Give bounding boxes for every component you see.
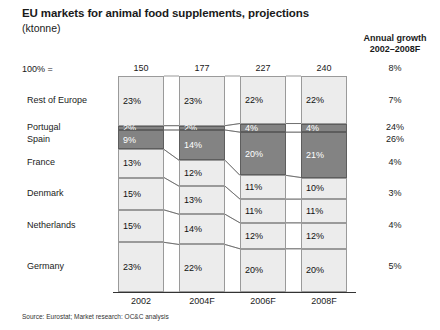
category-label: Denmark [27, 188, 64, 198]
growth-value: 4% [352, 220, 438, 230]
bar-segment: 12% [240, 223, 286, 249]
stacked-bar: 23%2%9%13%15%15%23% [118, 76, 164, 292]
x-axis-tick-label: 2006F [240, 296, 286, 306]
bar-segment: 22% [179, 244, 225, 292]
bar-segment: 13% [179, 186, 225, 214]
bar-segment: 20% [301, 249, 347, 292]
bar-segment: 4% [301, 124, 347, 133]
annual-growth-header: Annual growth 2002–2008F [352, 33, 438, 55]
stacked-bar: 22%4%21%10%11%12%20% [301, 76, 347, 292]
x-axis-line [113, 292, 356, 293]
bar-segment: 10% [301, 178, 347, 200]
bar-segment: 13% [118, 149, 164, 177]
bar-segment: 14% [179, 214, 225, 244]
category-label: France [27, 157, 55, 167]
bar-segment: 21% [301, 132, 347, 177]
bar-segment: 20% [240, 249, 286, 292]
x-axis-labels: 20022004F2006F2008F [0, 296, 440, 310]
chart-title: EU markets for animal food supplements, … [22, 7, 309, 19]
stacked-bar: 22%4%20%11%11%12%20% [240, 76, 286, 292]
x-axis-tick-label: 2004F [179, 296, 225, 306]
bar-segment: 14% [179, 130, 225, 160]
bar-segment: 9% [118, 130, 164, 149]
bar-segment: 4% [240, 124, 286, 133]
category-label: Spain [27, 134, 50, 144]
bar-segment: 23% [179, 76, 225, 126]
growth-value: 26% [352, 134, 438, 144]
bar-segment: 22% [240, 76, 286, 124]
category-label: Rest of Europe [27, 95, 87, 105]
annual-growth-header-line2: 2002–2008F [352, 44, 438, 55]
category-label: Netherlands [27, 220, 76, 230]
bar-segment: 11% [301, 199, 347, 223]
growth-value: 5% [352, 261, 438, 271]
bar-segment: 11% [240, 175, 286, 199]
bar-total: 177 [179, 63, 225, 73]
bar-segment: 11% [240, 199, 286, 223]
chart-subtitle: (ktonne) [22, 22, 61, 34]
stacked-bar: 23%2%14%12%13%14%22% [179, 76, 225, 292]
bar-segment: 23% [118, 242, 164, 292]
growth-value: 3% [352, 188, 438, 198]
plot-area: 23%2%9%13%15%15%23%23%2%14%12%13%14%22%2… [0, 76, 440, 292]
growth-value: 7% [352, 95, 438, 105]
annual-growth-header-line1: Annual growth [352, 33, 438, 44]
source-note: Source: Eurostat; Market research: OC&C … [22, 313, 169, 320]
bar-total: 240 [301, 63, 347, 73]
x-axis-tick-label: 2008F [301, 296, 347, 306]
bar-segment: 12% [301, 223, 347, 249]
bar-segment: 15% [118, 178, 164, 210]
total-growth-value: 8% [352, 63, 438, 73]
bar-segment: 22% [301, 76, 347, 124]
bar-segment: 23% [118, 76, 164, 126]
category-label: Portugal [27, 122, 61, 132]
bar-segment: 12% [179, 160, 225, 186]
x-axis-tick-label: 2002 [118, 296, 164, 306]
bar-segment: 20% [240, 132, 286, 175]
bar-total: 150 [118, 63, 164, 73]
category-label: Germany [27, 261, 64, 271]
growth-value: 4% [352, 157, 438, 167]
bar-segment: 15% [118, 210, 164, 242]
growth-value: 24% [352, 122, 438, 132]
bar-total: 227 [240, 63, 286, 73]
